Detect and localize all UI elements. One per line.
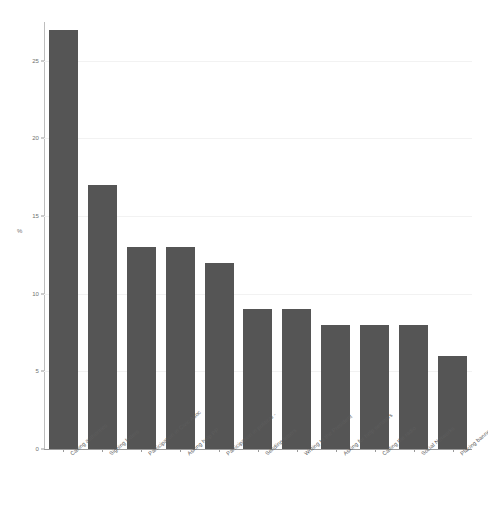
x-tick-label: Writing to the President	[303, 452, 307, 457]
x-tick-label: Calling authorities	[69, 452, 73, 457]
y-tick-label: 15	[32, 213, 39, 219]
bar-slot	[316, 22, 355, 449]
y-tick-label: 5	[36, 368, 39, 374]
x-tick-label: Sending letters	[264, 452, 268, 457]
y-axis-label: %	[17, 228, 22, 234]
bar[interactable]	[282, 309, 311, 449]
bar-slot	[83, 22, 122, 449]
bar-slot	[355, 22, 394, 449]
bar[interactable]	[88, 185, 117, 449]
y-tick-label: 20	[32, 135, 39, 141]
x-tick-label: Signing letters	[108, 452, 112, 457]
bar-series	[44, 22, 472, 449]
bar[interactable]	[127, 247, 156, 449]
bar-slot	[161, 22, 200, 449]
x-tick-label: Asking help PP	[186, 452, 190, 457]
plot-area: 0510152025	[44, 22, 472, 449]
y-tick-label: 25	[32, 58, 39, 64]
bar-chart: % 0510152025 Calling authoritiesSigning …	[0, 0, 488, 514]
bar[interactable]	[49, 30, 78, 449]
bar-slot	[277, 22, 316, 449]
bar-slot	[122, 22, 161, 449]
x-tick-label: Placing banners	[459, 452, 463, 457]
y-tick-label: 10	[32, 291, 39, 297]
bar-slot	[433, 22, 472, 449]
y-tick-label: 0	[36, 446, 39, 452]
x-tick-label: Participation in Civic Asoc	[147, 452, 151, 457]
x-tick-label: Social Networks	[420, 452, 424, 457]
bar-slot	[394, 22, 433, 449]
x-tick-label: Asking for help senators	[342, 452, 346, 457]
bar-slot	[44, 22, 83, 449]
bar[interactable]	[205, 263, 234, 449]
bar-slot	[239, 22, 278, 449]
bar-slot	[200, 22, 239, 449]
x-axis-labels: Calling authoritiesSigning lettersPartic…	[44, 452, 472, 514]
x-tick-label: Calling the radio	[381, 452, 385, 457]
x-tick-label: Participation in political -	[225, 452, 229, 457]
